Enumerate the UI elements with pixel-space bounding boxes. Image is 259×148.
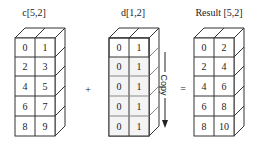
cell: 9 [43,121,48,132]
cell: 2 [202,61,207,72]
arrow-down-icon [162,120,168,128]
cell: 1 [137,42,142,53]
cell: 1 [137,81,142,92]
cell: 8 [222,101,227,112]
array-c: c[5,2] 0 1 2 3 4 5 6 7 8 9 [15,7,65,136]
cell: 4 [222,61,227,72]
cell: 8 [202,121,207,132]
cell: 1 [137,61,142,72]
cell: 0 [117,61,122,72]
plus-operator: + [85,84,91,95]
cell: 1 [137,121,142,132]
cell: 4 [202,81,207,92]
cell: 6 [222,81,227,92]
copy-arrow: Copy [159,52,170,128]
array-d: d[1,2] 0 1 0 1 0 1 0 1 0 1 [109,7,159,136]
cell: 0 [117,81,122,92]
cell: 8 [23,121,28,132]
copy-label: Copy [159,74,169,96]
cell: 5 [43,81,48,92]
cell: 1 [43,42,48,53]
cell: 0 [117,101,122,112]
array-d-title: d[1,2] [121,7,145,18]
cell: 6 [23,101,28,112]
cell: 7 [43,101,48,112]
cell: 2 [222,42,227,53]
cell: 4 [23,81,28,92]
cell: 1 [137,101,142,112]
cell: 0 [117,121,122,132]
cell: 6 [202,101,207,112]
array-result-title: Result [5,2] [195,7,242,18]
cell: 0 [23,42,28,53]
cell: 0 [202,42,207,53]
cell: 10 [219,121,229,132]
cell: 0 [117,42,122,53]
cell: 2 [23,61,28,72]
broadcast-diagram: c[5,2] 0 1 2 3 4 5 6 7 8 9 + d[1,2] [0,0,259,148]
equals-operator: = [180,83,186,94]
array-c-title: c[5,2] [22,7,46,18]
cell: 3 [43,61,48,72]
array-result: Result [5,2] 0 2 2 4 4 6 6 8 8 10 [194,7,244,136]
